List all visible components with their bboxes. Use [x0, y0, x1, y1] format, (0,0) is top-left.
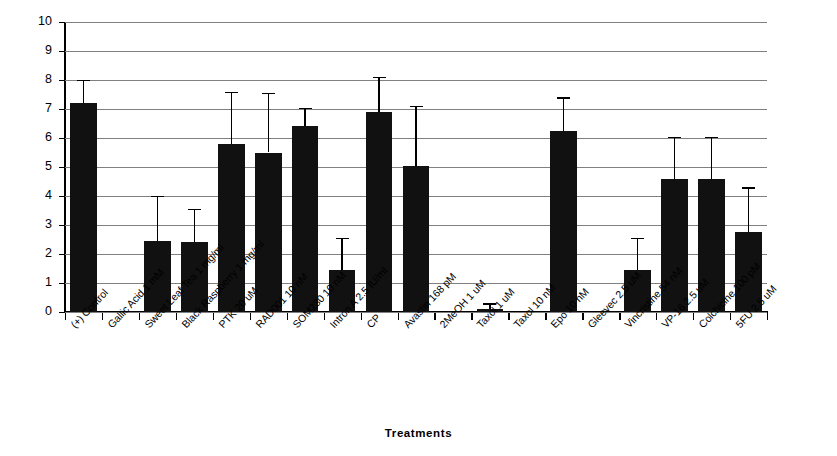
- bar: [292, 126, 319, 312]
- x-axis-title: Treatments: [0, 427, 837, 439]
- bar: [403, 166, 430, 312]
- error-bar-cap: [483, 303, 496, 304]
- x-axis-tick-mark: [287, 313, 288, 320]
- y-axis-tick-label: 4: [26, 189, 52, 202]
- x-axis-tick-mark: [139, 313, 140, 320]
- error-bar-cap: [668, 137, 681, 138]
- error-bar-cap: [631, 238, 644, 239]
- x-axis-tick-mark: [767, 313, 768, 320]
- error-bar-stem: [378, 77, 379, 112]
- x-axis-tick-mark: [471, 313, 472, 320]
- error-bar-stem: [231, 92, 232, 144]
- error-bar-cap: [336, 238, 349, 239]
- x-axis-tick-mark: [656, 313, 657, 320]
- error-bar-stem: [415, 106, 416, 165]
- error-bar-stem: [637, 238, 638, 270]
- bar: [70, 103, 97, 312]
- y-axis-tick-label: 1: [26, 276, 52, 289]
- bar: [366, 112, 393, 312]
- x-axis-tick-mark: [250, 313, 251, 320]
- error-bar-stem: [83, 80, 84, 103]
- error-bar-cap: [77, 80, 90, 81]
- error-bar-stem: [711, 137, 712, 179]
- bar: [661, 179, 688, 312]
- x-axis-tick-mark: [545, 313, 546, 320]
- x-axis-tick-mark: [693, 313, 694, 320]
- bar: [550, 131, 577, 312]
- error-bar-stem: [194, 209, 195, 242]
- y-axis-tick-label: 8: [26, 73, 52, 86]
- x-axis-tick-mark: [213, 313, 214, 320]
- y-axis-tick-label: 2: [26, 247, 52, 260]
- y-axis-tick-label: 0: [26, 305, 52, 318]
- x-axis-category-label: CP: [364, 311, 383, 330]
- error-bar-cap: [705, 137, 718, 138]
- x-axis-tick-mark: [619, 313, 620, 320]
- error-bar-stem: [563, 97, 564, 130]
- gridline: [65, 312, 767, 313]
- y-axis-tick-label: 5: [26, 160, 52, 173]
- x-axis-tick-mark: [730, 313, 731, 320]
- x-axis-tick-mark: [361, 313, 362, 320]
- x-axis-tick-mark: [434, 313, 435, 320]
- error-bar-stem: [157, 196, 158, 241]
- x-axis-tick-mark: [508, 313, 509, 320]
- x-axis-tick-mark: [398, 313, 399, 320]
- y-axis-tick-label: 6: [26, 131, 52, 144]
- error-bar-cap: [557, 97, 570, 98]
- y-axis-tick-label: 3: [26, 218, 52, 231]
- error-bar-stem: [748, 187, 749, 232]
- bar-chart: Mean Angiogenic Index (± 2SEM) 012345678…: [0, 0, 837, 456]
- bar: [477, 309, 504, 312]
- gridline: [65, 80, 767, 81]
- error-bar-cap: [742, 187, 755, 188]
- bar: [698, 179, 725, 312]
- bar: [218, 144, 245, 312]
- plot-area: [65, 22, 767, 312]
- bar: [255, 153, 282, 313]
- y-axis-tick-label: 9: [26, 44, 52, 57]
- error-bar-stem: [268, 93, 269, 152]
- bar: [624, 270, 651, 312]
- y-axis-tick-label: 10: [26, 15, 52, 28]
- error-bar-cap: [262, 93, 275, 94]
- error-bar-stem: [304, 108, 305, 127]
- x-axis-tick-mark: [65, 313, 66, 320]
- bar: [144, 241, 171, 312]
- x-axis-tick-mark: [176, 313, 177, 320]
- error-bar-stem: [674, 137, 675, 179]
- bar: [735, 232, 762, 312]
- error-bar-cap: [299, 108, 312, 109]
- bar: [181, 242, 208, 312]
- error-bar-cap: [410, 106, 423, 107]
- error-bar-cap: [188, 209, 201, 210]
- error-bar-cap: [151, 196, 164, 197]
- gridline: [65, 51, 767, 52]
- x-axis-tick-mark: [324, 313, 325, 320]
- error-bar-cap: [373, 77, 386, 78]
- y-axis-tick-label: 7: [26, 102, 52, 115]
- bar: [329, 270, 356, 312]
- x-axis-tick-mark: [102, 313, 103, 320]
- gridline: [65, 22, 767, 23]
- error-bar-stem: [341, 238, 342, 270]
- error-bar-cap: [225, 92, 238, 93]
- x-axis-tick-mark: [582, 313, 583, 320]
